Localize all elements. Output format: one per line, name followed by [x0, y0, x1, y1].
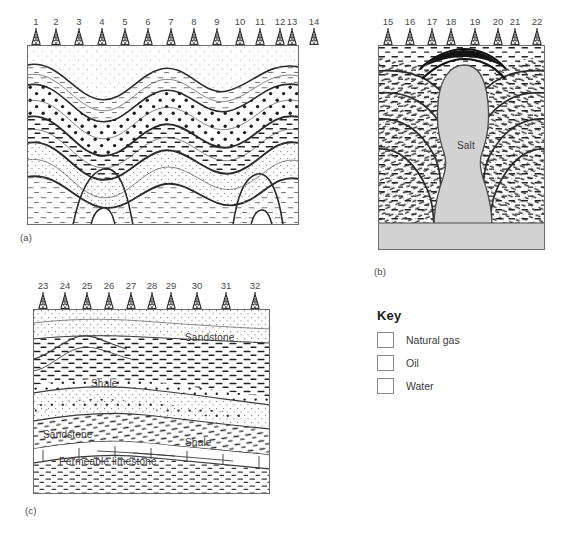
well-derrick[interactable]: 30 — [190, 281, 204, 309]
well-number: 2 — [49, 17, 63, 27]
shale-upper-label: Shale — [91, 378, 118, 389]
oil-derrick-icon — [308, 28, 320, 45]
well-number: 17 — [425, 17, 439, 27]
key-item-natural-gas[interactable]: Natural gas — [377, 332, 537, 348]
well-number: 25 — [80, 281, 94, 291]
shale-lower-label: Shale — [185, 437, 212, 448]
well-number: 32 — [248, 281, 262, 291]
oil-derrick-icon — [81, 292, 93, 309]
well-derrick[interactable]: 23 — [36, 281, 50, 309]
key-label: Water — [406, 380, 434, 392]
oil-derrick-icon — [50, 28, 62, 45]
well-derrick[interactable]: 25 — [80, 281, 94, 309]
well-derrick[interactable]: 7 — [164, 17, 178, 45]
well-derrick[interactable]: 16 — [403, 17, 417, 45]
well-number: 3 — [72, 17, 86, 27]
oil-derrick-icon — [30, 28, 42, 45]
panel-b-well-row: 15 16 17 — [378, 11, 545, 45]
oil-derrick-icon — [445, 28, 457, 45]
key-item-oil[interactable]: Oil — [377, 355, 537, 371]
panel-a-well-row: 1 2 3 — [27, 11, 299, 45]
well-number: 11 — [253, 17, 267, 27]
well-number: 9 — [210, 17, 224, 27]
oil-derrick-icon — [103, 292, 115, 309]
key-label: Natural gas — [406, 334, 460, 346]
well-derrick[interactable]: 24 — [58, 281, 72, 309]
oil-derrick-icon — [404, 28, 416, 45]
well-number: 19 — [468, 17, 482, 27]
oil-derrick-icon — [249, 292, 261, 309]
oil-derrick-icon — [286, 28, 298, 45]
well-derrick[interactable]: 2 — [49, 17, 63, 45]
well-number: 7 — [164, 17, 178, 27]
well-derrick[interactable]: 20 — [491, 17, 505, 45]
oil-derrick-icon — [146, 292, 158, 309]
panel-c-caption: (c) — [25, 505, 37, 516]
oil-derrick-icon — [125, 292, 137, 309]
well-derrick[interactable]: 1 — [29, 17, 43, 45]
well-derrick[interactable]: 6 — [141, 17, 155, 45]
oil-derrick-icon — [165, 28, 177, 45]
well-derrick[interactable]: 17 — [425, 17, 439, 45]
panel-a-anticline-cross-section: 1 2 3 — [27, 45, 299, 225]
well-derrick[interactable]: 4 — [95, 17, 109, 45]
oil-derrick-icon — [73, 28, 85, 45]
oil-derrick-icon — [509, 28, 521, 45]
well-number: 22 — [530, 17, 544, 27]
oil-derrick-icon — [382, 28, 394, 45]
well-number: 13 — [285, 17, 299, 27]
well-derrick[interactable]: 9 — [210, 17, 224, 45]
well-derrick[interactable]: 31 — [219, 281, 233, 309]
well-number: 4 — [95, 17, 109, 27]
water-swatch — [377, 378, 394, 394]
oil-derrick-icon — [165, 292, 177, 309]
sandstone-lower-label: Sandstone — [43, 429, 93, 440]
well-derrick[interactable]: 14 — [307, 17, 321, 45]
well-number: 28 — [145, 281, 159, 291]
oil-derrick-icon — [531, 28, 543, 45]
well-number: 21 — [508, 17, 522, 27]
well-number: 29 — [164, 281, 178, 291]
well-number: 6 — [141, 17, 155, 27]
well-number: 1 — [29, 17, 43, 27]
well-derrick[interactable]: 3 — [72, 17, 86, 45]
well-derrick[interactable]: 26 — [102, 281, 116, 309]
well-derrick[interactable]: 15 — [381, 17, 395, 45]
well-derrick[interactable]: 29 — [164, 281, 178, 309]
well-number: 20 — [491, 17, 505, 27]
well-number: 5 — [118, 17, 132, 27]
oil-derrick-icon — [188, 28, 200, 45]
key-item-water[interactable]: Water — [377, 378, 537, 394]
well-number: 16 — [403, 17, 417, 27]
oil-derrick-icon — [254, 28, 266, 45]
salt-label: Salt — [457, 140, 475, 151]
oil-derrick-icon — [426, 28, 438, 45]
oil-derrick-icon — [59, 292, 71, 309]
well-derrick[interactable]: 19 — [468, 17, 482, 45]
well-derrick[interactable]: 21 — [508, 17, 522, 45]
natural-gas-swatch — [377, 332, 394, 348]
oil-derrick-icon — [119, 28, 131, 45]
well-derrick[interactable]: 28 — [145, 281, 159, 309]
oil-derrick-icon — [469, 28, 481, 45]
oil-derrick-icon — [96, 28, 108, 45]
oil-derrick-icon — [142, 28, 154, 45]
key-title: Key — [377, 308, 537, 323]
well-derrick[interactable]: 13 — [285, 17, 299, 45]
well-number: 26 — [102, 281, 116, 291]
panel-a-caption: (a) — [20, 232, 32, 243]
panel-b-caption: (b) — [374, 266, 386, 277]
well-derrick[interactable]: 27 — [124, 281, 138, 309]
oil-derrick-icon — [492, 28, 504, 45]
well-derrick[interactable]: 10 — [233, 17, 247, 45]
oil-derrick-icon — [211, 28, 223, 45]
permeable-limestone-label: Permeable limestone — [59, 456, 157, 467]
well-derrick[interactable]: 32 — [248, 281, 262, 309]
well-number: 8 — [187, 17, 201, 27]
well-derrick[interactable]: 11 — [253, 17, 267, 45]
well-derrick[interactable]: 18 — [444, 17, 458, 45]
well-derrick[interactable]: 8 — [187, 17, 201, 45]
well-derrick[interactable]: 5 — [118, 17, 132, 45]
well-derrick[interactable]: 22 — [530, 17, 544, 45]
oil-swatch — [377, 355, 394, 371]
